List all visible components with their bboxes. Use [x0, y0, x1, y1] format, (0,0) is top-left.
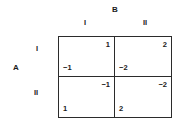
column-payoff-value: 2: [163, 41, 167, 49]
matrix-cell-I-I: 1 −1: [59, 37, 115, 77]
column-payoff-value: 1: [106, 41, 110, 49]
row-strategy-header-2: II: [29, 89, 43, 97]
row-payoff-value: −1: [63, 64, 72, 72]
column-payoff-value: −2: [158, 81, 167, 89]
column-payoff-value: −1: [101, 81, 110, 89]
row-payoff-value: −2: [119, 64, 128, 72]
payoff-matrix-figure: B A I II I II 1 −1 2 −2 −1 1 −2 2: [0, 0, 181, 125]
column-strategy-header-2: II: [138, 19, 152, 27]
row-player-label: A: [9, 64, 23, 72]
row-strategy-header-1: I: [30, 45, 44, 53]
matrix-cell-II-II: −2 2: [115, 77, 171, 117]
matrix-cell-I-II: 2 −2: [115, 37, 171, 77]
column-player-label: B: [108, 6, 122, 14]
row-payoff-value: 1: [63, 105, 67, 113]
payoff-matrix-grid: 1 −1 2 −2 −1 1 −2 2: [58, 36, 172, 118]
column-strategy-header-1: I: [78, 19, 92, 27]
matrix-cell-II-I: −1 1: [59, 77, 115, 117]
row-payoff-value: 2: [119, 105, 123, 113]
